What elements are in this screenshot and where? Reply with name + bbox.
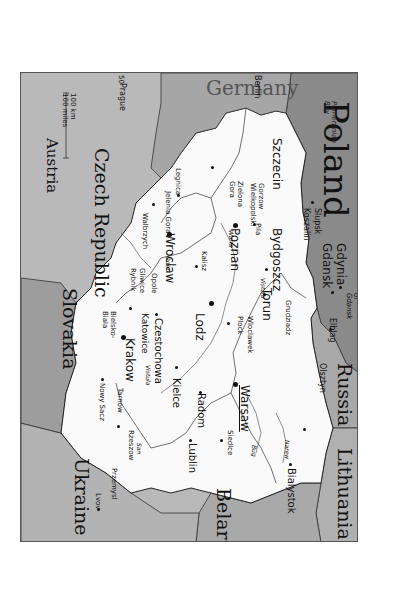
city-dot-nowy-sacz — [101, 378, 104, 381]
city-dot-czestochowa — [155, 313, 158, 316]
river-san: San — [136, 443, 142, 454]
river-vistula-south: Vistula — [145, 365, 151, 385]
city-dot-radom — [199, 391, 202, 394]
city-prague: Prague — [118, 83, 126, 111]
city-warsaw: Warsaw — [239, 385, 251, 432]
country-label-austria: Austria — [44, 138, 59, 193]
river-narew: Narew — [284, 440, 290, 459]
city-dot-wroclaw — [167, 232, 172, 237]
city-rzeszow: Rzeszow — [127, 430, 134, 460]
city-koszalin: Koszalin — [302, 208, 310, 241]
city-bielsko: Bielsko-Biala — [101, 311, 116, 329]
country-label-ukraine: Ukraine — [72, 458, 91, 536]
city-dot-plock — [227, 322, 230, 325]
city-grudziadz: Grudziadz — [284, 300, 291, 335]
city-dot-katowice — [129, 307, 132, 310]
river-warta: Warta — [228, 230, 234, 248]
city-dot-gdansk — [331, 291, 334, 294]
city-dot-walbrzych — [152, 203, 155, 206]
city-berlin: Berlin — [253, 75, 261, 98]
country-label-russia: Russia — [335, 363, 354, 426]
scale-miles: 100 miles — [61, 93, 68, 127]
city-jelenia-gora: Jelenia Gora — [164, 191, 171, 233]
city-lvov: Lvov — [94, 493, 101, 509]
city-czestochowa: Czestochowa — [153, 318, 163, 384]
city-dot-lvov — [97, 508, 100, 511]
country-label-slovakia: Slovakia — [60, 288, 79, 370]
city-dot-bydgoszcz — [265, 268, 268, 271]
city-dot-koszalin — [311, 201, 314, 204]
water-label-gdansk-gulf: Gulf of Gdansk — [345, 293, 358, 315]
city-zielona-gora: Zielona Gora — [228, 181, 243, 206]
city-slupsk: Slupsk — [313, 208, 321, 234]
city-nowy-sacz: Nowy Sacz — [98, 383, 105, 421]
city-dot-rzeszow — [117, 425, 120, 428]
scale-km: 100 km — [69, 93, 76, 119]
city-przemysl: Przemysl — [110, 468, 117, 500]
city-siedlce: Siedlce — [226, 430, 233, 455]
city-rybnik: Rybnik — [129, 268, 136, 292]
city-dot-krakow — [121, 335, 126, 340]
city-dot-legnica — [177, 194, 180, 197]
city-gorzow: Gorzow Wielkopolski — [249, 183, 264, 223]
city-kalisz: Kalisz — [200, 251, 207, 271]
city-opole: Opole — [150, 273, 157, 294]
city-bialystok: Bialystok — [286, 468, 296, 514]
city-dot-warsaw — [233, 382, 238, 387]
city-dot-kielce — [175, 366, 178, 369]
city-wloclawek: Wloclawek — [246, 316, 253, 353]
river-oder: Oder — [165, 256, 171, 271]
city-plock: Plock — [236, 316, 243, 334]
city-bydgoszcz: Bydgoszcz — [271, 228, 283, 291]
city-gdynia: Gdynia — [335, 243, 347, 285]
city-dot-elblag — [329, 328, 332, 331]
city-dot-kalisz — [195, 265, 198, 268]
city-katowice: Katowice — [140, 313, 149, 354]
country-label-belarus: Belarus — [214, 488, 233, 542]
city-kielce: Kielce — [171, 378, 181, 408]
map-frame: Poland Germany Czech Republic Austria Sl… — [20, 72, 358, 542]
city-szczecin: Szczecin — [271, 138, 283, 190]
city-dot-pila — [253, 223, 256, 226]
city-dot-siedlce — [220, 439, 223, 442]
city-gliwice: Gliwice — [138, 268, 145, 293]
city-lodz: Lodz — [194, 313, 206, 341]
city-olsztyn: Olsztyn — [318, 363, 326, 393]
city-tarnow: Tarnow — [116, 388, 123, 413]
city-radom: Radom — [196, 393, 206, 428]
city-legnica: Legnica — [174, 168, 181, 195]
city-dot-zielona-gora — [211, 166, 214, 169]
city-dot-bialystok — [289, 463, 292, 466]
city-dot-lublin — [189, 439, 192, 442]
city-gdansk: Gdansk — [321, 243, 333, 288]
city-lublin: Lublin — [187, 443, 197, 473]
city-dot-poznan — [233, 223, 238, 228]
country-label-czech: Czech Republic — [92, 148, 111, 298]
city-dot-torun — [263, 293, 266, 296]
city-walbrzych: Walbrzych — [141, 213, 148, 249]
city-dot-lodz — [209, 301, 214, 306]
city-krakow: Krakow — [124, 338, 136, 382]
river-bug: Bug — [251, 445, 257, 457]
city-dot-gdynia — [339, 286, 342, 289]
city-dot-olsztyn — [303, 428, 306, 431]
country-label-lithuania: Lithuania — [335, 448, 354, 540]
water-label-pomeranian: Pomeranian Bay — [323, 101, 337, 131]
